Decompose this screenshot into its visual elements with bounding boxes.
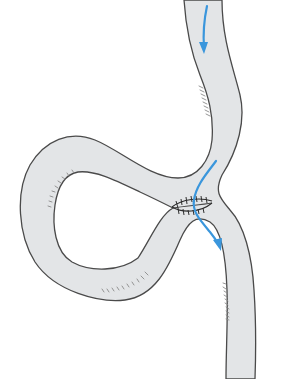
bowel-loop bbox=[20, 0, 255, 379]
anastomosis-diagram bbox=[0, 0, 288, 379]
